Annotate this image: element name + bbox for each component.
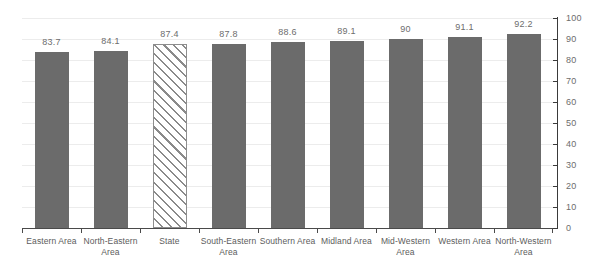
bar-group: 90 [376,18,435,228]
bar-group: 92.2 [494,18,553,228]
bar-group: 87.4 [140,18,199,228]
bar-group: 89.1 [317,18,376,228]
x-axis-label: Western Area [433,236,497,247]
x-axis-tick [81,228,82,233]
bar-value-label: 83.7 [42,37,60,47]
y-axis-tick [553,60,558,61]
bar-value-label: 92.2 [514,19,532,29]
y-axis-tick [553,81,558,82]
bar-value-label: 87.8 [219,29,237,39]
bar-group: 88.6 [258,18,317,228]
x-axis-tick [258,228,259,233]
bar[interactable] [271,42,305,228]
bar[interactable] [507,34,541,228]
x-axis: Eastern AreaNorth-Eastern AreaStateSouth… [22,228,553,268]
y-axis: 0102030405060708090100 [557,18,605,228]
bar-group: 87.8 [199,18,258,228]
x-axis-tick [376,228,377,233]
y-axis-label: 0 [566,223,571,233]
y-axis-label: 90 [566,34,576,44]
x-axis-label: Midland Area [315,236,379,247]
y-axis-label: 10 [566,202,576,212]
x-axis-label: South-Eastern Area [197,236,261,258]
y-axis-tick [553,39,558,40]
x-axis-tick [22,228,23,233]
bar[interactable] [94,51,128,228]
bar[interactable] [153,44,187,228]
x-axis-tick [317,228,318,233]
x-axis-label: North-Western Area [492,236,556,258]
y-axis-label: 50 [566,118,576,128]
y-axis-label: 70 [566,76,576,86]
x-axis-tick [140,228,141,233]
x-axis-label: North-Eastern Area [79,236,143,258]
y-axis-tick [553,186,558,187]
bar[interactable] [212,44,246,228]
bar-value-label: 90 [400,24,410,34]
x-axis-tick [199,228,200,233]
bar[interactable] [389,39,423,228]
y-axis-tick [553,102,558,103]
x-axis-tick [494,228,495,233]
y-axis-label: 20 [566,181,576,191]
x-axis-label: State [138,236,202,247]
x-axis-label: Eastern Area [20,236,84,247]
bar-group: 91.1 [435,18,494,228]
y-axis-label: 100 [566,13,582,23]
bar-value-label: 87.4 [160,29,178,39]
bars-layer: 83.784.187.487.888.689.19091.192.2 [22,18,553,228]
y-axis-label: 60 [566,97,576,107]
y-axis-label: 40 [566,139,576,149]
y-axis-tick [553,165,558,166]
y-axis-label: 80 [566,55,576,65]
x-axis-label: Mid-Western Area [374,236,438,258]
y-axis-tick [553,228,558,229]
x-axis-label: Southern Area [256,236,320,247]
x-axis-tick [435,228,436,233]
bar-chart: 83.784.187.487.888.689.19091.192.2 Easte… [0,0,605,268]
bar-value-label: 91.1 [455,22,473,32]
y-axis-label: 30 [566,160,576,170]
y-axis-tick [553,123,558,124]
bar-group: 83.7 [22,18,81,228]
bar-value-label: 89.1 [337,26,355,36]
bar[interactable] [330,41,364,228]
y-axis-tick [553,207,558,208]
bar-value-label: 88.6 [278,27,296,37]
bar-group: 84.1 [81,18,140,228]
y-axis-tick [553,144,558,145]
bar[interactable] [35,52,69,228]
bar[interactable] [448,37,482,228]
plot-area: 83.784.187.487.888.689.19091.192.2 [22,18,553,228]
bar-value-label: 84.1 [101,36,119,46]
y-axis-tick [553,18,558,19]
